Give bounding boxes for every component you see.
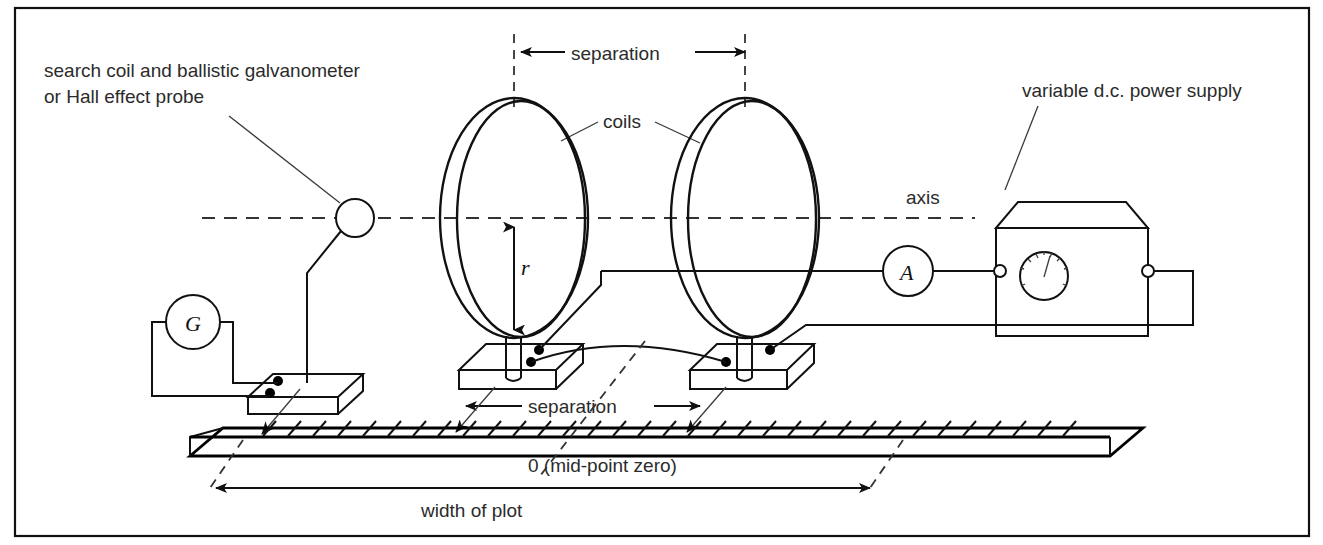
midpoint-zero-label: 0 (mid-point zero) <box>528 455 677 476</box>
galvanometer: G <box>152 295 278 396</box>
search-coil-probe <box>307 199 374 383</box>
width-of-plot-label: width of plot <box>420 500 523 521</box>
search-coil-annotation: search coil and ballistic galvanometer o… <box>44 60 360 203</box>
coils-annotation: coils <box>561 111 700 143</box>
search-coil-label-line1: search coil and ballistic galvanometer <box>44 60 360 81</box>
width-of-plot-dimension: width of plot <box>210 440 903 521</box>
separation-bottom-dimension: separation <box>466 392 700 419</box>
radius-dimension: r <box>514 227 530 330</box>
circuit-wiring <box>531 271 1193 362</box>
search-coil-base <box>248 374 363 414</box>
figure-root: axis separation search coil and ballisti… <box>0 0 1323 545</box>
search-coil-head <box>336 199 374 237</box>
power-supply-terminal-right <box>1142 265 1154 277</box>
power-supply-annotation: variable d.c. power supply <box>1005 80 1242 190</box>
search-coil-label-line2: or Hall effect probe <box>44 86 204 107</box>
separation-top-dimension: separation <box>514 34 745 108</box>
power-supply <box>994 202 1154 336</box>
dial-ticks <box>1020 251 1068 286</box>
axis-label: axis <box>906 187 940 208</box>
ammeter-symbol: A <box>898 260 914 285</box>
apparatus-diagram: axis separation search coil and ballisti… <box>0 0 1323 545</box>
ruler <box>190 421 1143 456</box>
radius-label: r <box>521 255 530 280</box>
separation-top-label: separation <box>571 43 660 64</box>
separation-bottom-label: separation <box>528 396 617 417</box>
power-supply-terminal-left <box>994 265 1006 277</box>
coils-label: coils <box>603 111 641 132</box>
galvanometer-symbol: G <box>185 311 201 336</box>
ammeter: A <box>883 246 933 296</box>
search-coil-terminal-a <box>273 376 283 386</box>
power-supply-label: variable d.c. power supply <box>1022 80 1242 101</box>
